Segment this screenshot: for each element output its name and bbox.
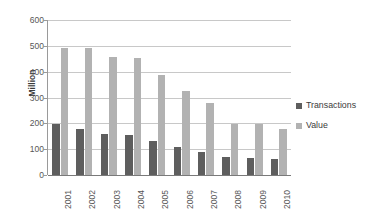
bar-transactions-2006 [174, 147, 182, 175]
bar-group-2007 [198, 20, 214, 175]
bar-group-2009 [247, 20, 263, 175]
x-tick-label-2007: 2007 [209, 190, 219, 209]
bar-transactions-2001 [52, 124, 60, 175]
y-tick-label-400: 400 [18, 67, 44, 76]
bar-transactions-2008 [222, 157, 230, 175]
y-tick-label-500: 500 [18, 42, 44, 51]
bar-group-2002 [76, 20, 92, 175]
bar-transactions-2003 [101, 134, 109, 175]
bar-group-2006 [174, 20, 190, 175]
bar-chart: Million 6005004003002001000 200120022003… [0, 0, 380, 214]
y-tickmark-400 [43, 72, 47, 73]
bar-transactions-2009 [247, 158, 255, 175]
bar-value-2002 [85, 48, 93, 175]
y-tickmark-300 [43, 98, 47, 99]
bar-value-2003 [109, 57, 117, 175]
y-tickmark-200 [43, 123, 47, 124]
y-tick-label-600: 600 [18, 16, 44, 25]
legend-label: Value [306, 121, 328, 130]
x-tick-label-2005: 2005 [160, 190, 170, 209]
y-tickmark-0 [43, 175, 47, 176]
chart-legend: TransactionsValue [296, 100, 380, 140]
x-tick-label-2009: 2009 [258, 190, 268, 209]
bar-value-2001 [61, 48, 69, 175]
bar-value-2009 [255, 124, 263, 175]
bar-transactions-2005 [149, 141, 157, 175]
y-tickmark-500 [43, 46, 47, 47]
bar-group-2010 [271, 20, 287, 175]
legend-item-value[interactable]: Value [296, 120, 380, 131]
bar-group-2003 [101, 20, 117, 175]
y-tick-label-300: 300 [18, 93, 44, 102]
bar-value-2005 [158, 75, 166, 175]
x-tick-label-2002: 2002 [87, 190, 97, 209]
x-tick-label-2003: 2003 [112, 190, 122, 209]
bar-group-2001 [52, 20, 68, 175]
plot-area [47, 20, 291, 175]
bar-transactions-2004 [125, 135, 133, 175]
bar-transactions-2007 [198, 152, 206, 175]
y-tickmark-600 [43, 20, 47, 21]
bar-value-2007 [206, 103, 214, 175]
legend-label: Transactions [306, 101, 356, 110]
y-tick-label-200: 200 [18, 119, 44, 128]
legend-swatch-icon-transactions [296, 103, 302, 109]
bar-value-2006 [182, 91, 190, 175]
bar-group-2005 [149, 20, 165, 175]
x-tick-label-2006: 2006 [185, 190, 195, 209]
bar-value-2010 [279, 129, 287, 176]
y-axis-tick-labels: 6005004003002001000 [18, 0, 44, 214]
y-tick-label-100: 100 [18, 145, 44, 154]
legend-item-transactions[interactable]: Transactions [296, 100, 380, 111]
x-tick-label-2001: 2001 [63, 190, 73, 209]
legend-swatch-icon-value [296, 123, 302, 129]
bar-transactions-2002 [76, 129, 84, 176]
bar-value-2008 [231, 124, 239, 175]
y-tick-label-0: 0 [18, 171, 44, 180]
bar-value-2004 [134, 58, 142, 175]
bar-transactions-2010 [271, 159, 279, 175]
x-tick-label-2010: 2010 [282, 190, 292, 209]
bar-group-2008 [222, 20, 238, 175]
bar-series-layer [48, 20, 291, 175]
x-tick-label-2008: 2008 [233, 190, 243, 209]
bar-group-2004 [125, 20, 141, 175]
y-tickmark-100 [43, 149, 47, 150]
x-axis-tick-labels: 2001200220032004200520062007200820092010 [47, 177, 290, 214]
x-tick-label-2004: 2004 [136, 190, 146, 209]
